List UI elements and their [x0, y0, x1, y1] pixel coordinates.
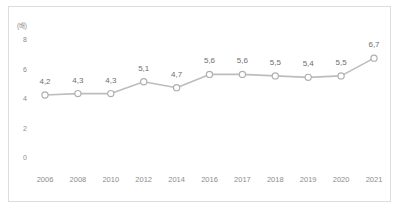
data-point-marker-2016 [206, 71, 212, 77]
data-point-marker-2018 [272, 73, 278, 79]
data-point-label-2016: 5,6 [197, 56, 223, 65]
data-point-label-2020: 5,5 [328, 58, 354, 67]
data-point-marker-2014 [174, 85, 180, 91]
data-point-marker-2017 [239, 71, 245, 77]
data-point-marker-2008 [75, 90, 81, 96]
data-point-label-2010: 4,3 [98, 76, 124, 85]
data-point-label-2019: 5,4 [295, 59, 321, 68]
line-chart-plot-area: (배) 02468 200620082010201220142016201720… [9, 7, 390, 201]
data-point-label-2018: 5,5 [262, 58, 288, 67]
data-point-label-2021: 6,7 [361, 40, 387, 49]
data-point-marker-2021 [371, 55, 377, 61]
data-point-label-2012: 5,1 [131, 64, 157, 73]
line-series-layer [9, 7, 392, 203]
data-point-marker-2010 [108, 90, 114, 96]
data-point-label-2008: 4,3 [65, 76, 91, 85]
data-point-label-2006: 4,2 [32, 77, 58, 86]
data-point-marker-2019 [305, 74, 311, 80]
chart-frame: (배) 02468 200620082010201220142016201720… [8, 6, 391, 202]
data-point-marker-2006 [42, 92, 48, 98]
data-point-marker-2020 [338, 73, 344, 79]
data-point-label-2017: 5,6 [229, 56, 255, 65]
data-point-marker-2012 [141, 79, 147, 85]
data-point-label-2014: 4,7 [164, 70, 190, 79]
